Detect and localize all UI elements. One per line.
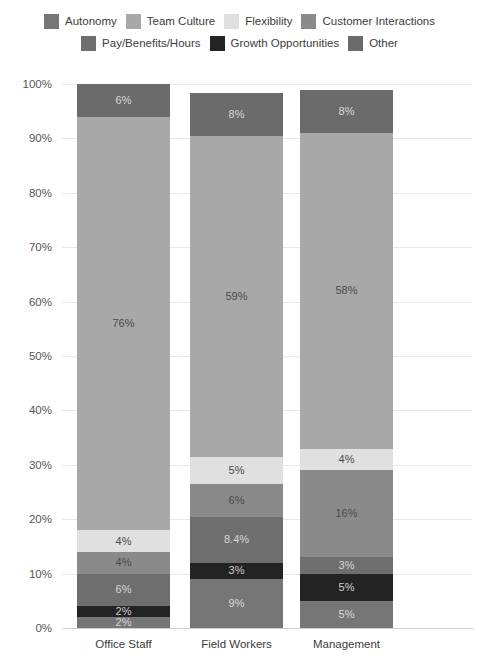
legend-swatch-icon [210, 36, 225, 51]
bar-segment[interactable]: 4% [300, 449, 393, 471]
bar-segment-value-label: 4% [116, 557, 132, 568]
legend-item-pay-benefits-hours[interactable]: Pay/Benefits/Hours [81, 36, 200, 51]
bar-segment-value-label: 76% [112, 318, 134, 329]
bar-segment-value-label: 5% [229, 465, 245, 476]
y-axis-tick-label: 40% [29, 404, 52, 416]
bar-segment-value-label: 6% [229, 495, 245, 506]
bar-segment-value-label: 3% [229, 565, 245, 576]
bar-segment[interactable]: 16% [300, 470, 393, 557]
legend-swatch-icon [44, 14, 59, 29]
legend-item-customer-interactions[interactable]: Customer Interactions [301, 14, 435, 29]
stacked-bar-management[interactable]: 5%5%3%16%4%58%8% [300, 84, 393, 628]
bar-segment[interactable]: 8.4% [190, 517, 283, 563]
bar-segment-value-label: 6% [116, 584, 132, 595]
legend-swatch-icon [348, 36, 363, 51]
legend-label: Flexibility [245, 16, 292, 28]
x-axis-category-label: Management [287, 638, 407, 650]
y-axis-tick-label: 100% [23, 78, 52, 90]
bar-segment[interactable]: 5% [300, 601, 393, 628]
bars-layer: 2%2%6%4%4%76%6%9%3%8.4%6%5%59%8%5%5%3%16… [62, 84, 472, 628]
bar-segment-value-label: 16% [335, 508, 357, 519]
y-axis: 0%10%20%30%40%50%60%70%80%90%100% [0, 76, 60, 636]
bar-segment[interactable]: 2% [77, 606, 170, 617]
bar-segment[interactable]: 6% [77, 84, 170, 117]
legend-row: Pay/Benefits/HoursGrowth OpportunitiesOt… [0, 36, 479, 51]
legend-item-autonomy[interactable]: Autonomy [44, 14, 117, 29]
bar-segment[interactable]: 3% [190, 563, 283, 579]
bar-segment-value-label: 3% [339, 560, 355, 571]
y-axis-tick-label: 80% [29, 187, 52, 199]
legend-label: Customer Interactions [322, 16, 435, 28]
legend-swatch-icon [301, 14, 316, 29]
bar-segment-value-label: 5% [339, 609, 355, 620]
legend-label: Team Culture [147, 16, 215, 28]
x-axis-line [62, 628, 474, 629]
legend-label: Pay/Benefits/Hours [102, 38, 200, 50]
bar-segment-value-label: 8.4% [224, 534, 249, 545]
legend-item-flexibility[interactable]: Flexibility [224, 14, 292, 29]
y-axis-tick-label: 60% [29, 296, 52, 308]
bar-segment[interactable]: 4% [77, 530, 170, 552]
bar-segment[interactable]: 8% [300, 90, 393, 134]
legend-label: Autonomy [65, 16, 117, 28]
legend-swatch-icon [224, 14, 239, 29]
stacked-bar-office-staff[interactable]: 2%2%6%4%4%76%6% [77, 84, 170, 628]
chart-page: AutonomyTeam CultureFlexibilityCustomer … [0, 0, 479, 670]
legend-label: Growth Opportunities [231, 38, 340, 50]
bar-segment[interactable]: 2% [77, 617, 170, 628]
bar-segment-value-label: 8% [229, 109, 245, 120]
y-axis-tick-label: 10% [29, 568, 52, 580]
plot-area: 0%10%20%30%40%50%60%70%80%90%100% 2%2%6%… [0, 76, 479, 670]
chart-legend: AutonomyTeam CultureFlexibilityCustomer … [0, 14, 479, 58]
bar-segment[interactable]: 9% [190, 579, 283, 628]
bar-segment[interactable]: 4% [77, 552, 170, 574]
bar-segment-value-label: 2% [116, 606, 132, 617]
bar-segment-value-label: 9% [229, 598, 245, 609]
bar-segment-value-label: 4% [116, 536, 132, 547]
bar-segment[interactable]: 6% [77, 574, 170, 607]
x-axis-category-label: Field Workers [177, 638, 297, 650]
y-axis-tick-label: 0% [35, 622, 52, 634]
legend-swatch-icon [126, 14, 141, 29]
bar-segment[interactable]: 3% [300, 557, 393, 573]
bar-segment-value-label: 58% [335, 285, 357, 296]
y-axis-tick-label: 30% [29, 459, 52, 471]
bar-segment-value-label: 8% [339, 106, 355, 117]
y-axis-tick-label: 20% [29, 513, 52, 525]
bar-segment-value-label: 4% [339, 454, 355, 465]
legend-swatch-icon [81, 36, 96, 51]
bar-segment[interactable]: 59% [190, 136, 283, 457]
x-axis-category-label: Office Staff [64, 638, 184, 650]
y-axis-tick-label: 70% [29, 241, 52, 253]
stacked-bar-field-workers[interactable]: 9%3%8.4%6%5%59%8% [190, 84, 283, 628]
bar-segment-value-label: 6% [116, 95, 132, 106]
legend-item-team-culture[interactable]: Team Culture [126, 14, 215, 29]
y-axis-tick-label: 90% [29, 132, 52, 144]
bar-segment[interactable]: 6% [190, 484, 283, 517]
bar-segment[interactable]: 5% [190, 457, 283, 484]
legend-row: AutonomyTeam CultureFlexibilityCustomer … [0, 14, 479, 29]
legend-item-other[interactable]: Other [348, 36, 398, 51]
bar-segment-value-label: 5% [339, 582, 355, 593]
bar-segment-value-label: 2% [116, 617, 132, 628]
bar-segment[interactable]: 8% [190, 93, 283, 137]
legend-label: Other [369, 38, 398, 50]
legend-item-growth-opportunities[interactable]: Growth Opportunities [210, 36, 340, 51]
y-axis-tick-label: 50% [29, 350, 52, 362]
bar-segment[interactable]: 58% [300, 133, 393, 449]
bar-segment[interactable]: 5% [300, 574, 393, 601]
x-axis-labels: Office StaffField WorkersManagement [62, 632, 472, 662]
bar-segment-value-label: 59% [225, 291, 247, 302]
bar-segment[interactable]: 76% [77, 117, 170, 530]
